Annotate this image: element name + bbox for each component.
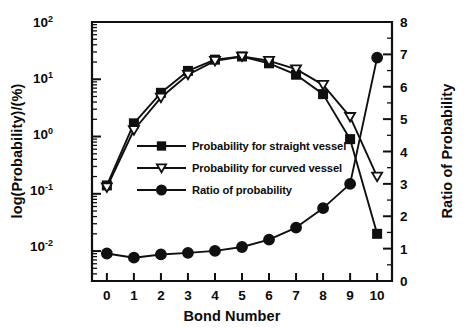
data-point-filled-circle	[157, 185, 167, 195]
x-tick-label: 3	[184, 288, 192, 303]
x-tick-label: 6	[265, 288, 273, 303]
x-tick-label: 9	[346, 288, 354, 303]
x-tick-label: 2	[157, 288, 165, 303]
legend-label: Ratio of probability	[192, 184, 293, 196]
data-point-open-down-triangle	[372, 173, 382, 182]
data-point-filled-circle	[237, 242, 247, 252]
legend-label: Probability for straight vessel	[192, 140, 346, 152]
y2-tick-label: 5	[400, 112, 408, 127]
series-line	[107, 58, 377, 258]
data-point-filled-circle	[291, 222, 301, 232]
data-point-filled-circle	[264, 234, 274, 244]
x-axis-tick-labels: 012345678910	[103, 288, 385, 303]
data-point-filled-circle	[210, 246, 220, 256]
figure-container: 102 101 100 10-1 10-2 012345678 01234567…	[0, 0, 467, 328]
data-point-filled-circle	[183, 248, 193, 258]
series-ratio-of-probability	[102, 52, 383, 262]
data-point-filled-circle	[345, 179, 355, 189]
x-tick-label: 10	[370, 288, 385, 303]
y2-tick-label: 2	[400, 209, 408, 224]
chart-canvas: 102 101 100 10-1 10-2 012345678 01234567…	[0, 0, 467, 328]
x-axis-title: Bond Number	[184, 308, 281, 324]
ytick-label-1e0: 100	[33, 126, 53, 142]
data-point-open-down-triangle	[157, 164, 166, 172]
legend-label: Probability for curved vessel	[192, 162, 342, 174]
x-tick-label: 8	[319, 288, 327, 303]
right-axis-tick-labels: 012345678	[400, 15, 408, 289]
data-point-filled-circle	[156, 249, 166, 259]
y2-axis-title: Ratio of Probability	[439, 84, 455, 219]
ytick-label-1e2: 102	[33, 14, 53, 30]
ytick-label-1em2: 10-2	[30, 238, 53, 254]
y2-tick-label: 6	[400, 80, 408, 95]
data-point-open-down-triangle	[102, 183, 112, 192]
ytick-exp-1em1: -1	[45, 182, 53, 192]
x-tick-label: 4	[211, 288, 219, 303]
right-axis-ticks	[383, 22, 392, 281]
chart-legend: Probability for straight vesselProbabili…	[137, 140, 346, 196]
y2-tick-label: 1	[400, 242, 408, 257]
y2-tick-label: 0	[400, 274, 408, 289]
left-axis-tick-labels: 102 101 100 10-1 10-2	[30, 14, 53, 254]
left-axis-ticks	[92, 22, 101, 281]
data-point-open-down-triangle	[345, 113, 355, 122]
ytick-exp-1em2: -2	[45, 238, 53, 248]
y2-tick-label: 4	[400, 145, 408, 160]
ytick-label-1em1: 10-1	[30, 182, 53, 198]
data-point-filled-circle	[102, 248, 112, 258]
data-point-filled-circle	[372, 52, 382, 62]
data-point-filled-circle	[129, 252, 139, 262]
data-point-filled-circle	[318, 203, 328, 213]
data-point-filled-square	[346, 135, 355, 144]
y2-tick-label: 7	[400, 47, 408, 62]
ytick-exp-1e2: 2	[48, 14, 53, 24]
ytick-exp-1e1: 1	[48, 70, 53, 80]
x-axis-ticks	[107, 273, 377, 281]
x-tick-label: 1	[130, 288, 138, 303]
x-tick-label: 0	[103, 288, 111, 303]
data-point-filled-square	[158, 142, 166, 150]
y2-tick-label: 8	[400, 15, 408, 30]
y2-tick-label: 3	[400, 177, 408, 192]
x-tick-label: 5	[238, 288, 246, 303]
ytick-label-1e1: 101	[33, 70, 53, 86]
y-axis-title: log(Probability)/(%)	[9, 83, 25, 218]
data-point-filled-square	[373, 230, 382, 239]
x-tick-label: 7	[292, 288, 300, 303]
ytick-exp-1e0: 0	[48, 126, 53, 136]
